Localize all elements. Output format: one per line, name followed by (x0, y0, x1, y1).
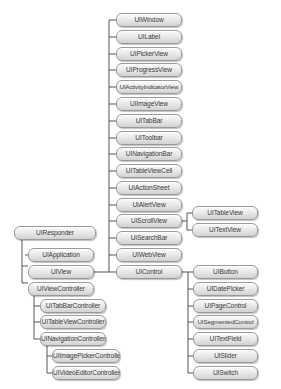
node-label: UISlider (194, 350, 257, 362)
node-uiscrollview: UIScrollView (116, 214, 182, 228)
node-label: UISegmentedControl (194, 316, 257, 328)
node-label: UIViewController (29, 283, 93, 295)
class-hierarchy-diagram: UIResponder UIApplication UIView UIViewC… (0, 0, 281, 389)
node-label: UITabBarController (41, 300, 105, 312)
node-label: UIToolbar (117, 132, 181, 144)
node-uinavigationbar: UINavigationBar (116, 147, 182, 161)
node-label: UITabBar (117, 115, 181, 127)
node-label: UITextView (193, 224, 257, 236)
node-label: UINavigationController (41, 333, 105, 345)
node-label: UITableViewController (41, 316, 105, 328)
node-uislider: UISlider (193, 349, 258, 363)
node-uiimagepickercontroller: UIImagePickerController (52, 349, 120, 363)
node-uiimageview: UIImageView (116, 97, 182, 111)
node-uivideoeditorcontroller: UIVideoEditorController (52, 366, 120, 380)
node-label: UIView (29, 266, 93, 278)
node-label: UIPageControl (194, 300, 257, 312)
node-uitextview: UITextView (192, 223, 258, 237)
node-uicontrol: UIControl (116, 265, 182, 279)
node-uitabbar: UITabBar (116, 114, 182, 128)
node-uidatepicker: UIDatePicker (193, 282, 258, 296)
node-uitoolbar: UIToolbar (116, 131, 182, 145)
node-label: UITableViewCell (117, 165, 181, 177)
node-label: UITableView (193, 207, 257, 219)
node-label: UIProgressView (117, 64, 181, 76)
node-uiprogressview: UIProgressView (116, 63, 182, 77)
node-uiresponder: UIResponder (14, 226, 96, 240)
node-uiviewcontroller: UIViewController (28, 282, 94, 296)
node-label: UIResponder (15, 227, 95, 239)
node-uipickerview: UIPickerView (116, 47, 182, 61)
node-uiview: UIView (28, 265, 94, 279)
node-label: UITextField (194, 333, 257, 345)
node-label: UIScrollView (117, 215, 181, 227)
node-label: UIVideoEditorController (53, 367, 119, 379)
node-uiapplication: UIApplication (28, 248, 94, 262)
node-uisegmentedcontrol: UISegmentedControl (193, 315, 258, 329)
node-uilabel: UILabel (116, 30, 182, 44)
node-label: UIWebView (117, 249, 181, 261)
node-label: UINavigationBar (117, 148, 181, 160)
node-label: UIWindow (117, 14, 181, 26)
node-uipagecontrol: UIPageControl (193, 299, 258, 313)
node-label: UIControl (117, 266, 181, 278)
node-label: UIImageView (117, 98, 181, 110)
node-label: UIDatePicker (194, 283, 257, 295)
node-uiwebview: UIWebView (116, 248, 182, 262)
node-label: UIPickerView (117, 48, 181, 60)
node-uitableviewcell: UITableViewCell (116, 164, 182, 178)
node-label: UIApplication (29, 249, 93, 261)
node-uinavigationcontroller: UINavigationController (40, 332, 106, 346)
node-uisearchbar: UISearchBar (116, 231, 182, 245)
node-uiactionsheet: UIActionSheet (116, 181, 182, 195)
node-label: UILabel (117, 31, 181, 43)
node-label: UIActionSheet (117, 182, 181, 194)
node-uiactivityindicatorview: UIActivityIndicatorView (116, 80, 182, 94)
node-uiswitch: UISwitch (193, 366, 258, 380)
node-label: UISearchBar (117, 232, 181, 244)
node-uiwindow: UIWindow (116, 13, 182, 27)
node-uialertview: UIAlertView (116, 198, 182, 212)
node-uibutton: UIButton (193, 265, 258, 279)
node-label: UISwitch (194, 367, 257, 379)
node-uitextfield: UITextField (193, 332, 258, 346)
node-label: UIAlertView (117, 199, 181, 211)
node-label: UIActivityIndicatorView (117, 81, 181, 93)
node-uitableview: UITableView (192, 206, 258, 220)
node-uitableviewcontroller: UITableViewController (40, 315, 106, 329)
node-label: UIImagePickerController (53, 350, 119, 362)
node-uitabbarcontroller: UITabBarController (40, 299, 106, 313)
node-label: UIButton (194, 266, 257, 278)
